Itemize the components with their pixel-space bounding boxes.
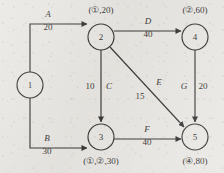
node-2-annotation: (①,20) — [88, 5, 113, 15]
node-3-number: 3 — [99, 132, 104, 142]
node-2[interactable]: 2 (①,20) — [88, 5, 114, 50]
node-3-annotation: (①,②,30) — [83, 156, 119, 166]
node-1[interactable]: 1 — [17, 72, 43, 98]
edge-A-weight: 20 — [44, 22, 54, 32]
edge-G: G 20 — [181, 50, 208, 122]
edge-B-weight: 30 — [43, 146, 53, 156]
edge-E-line — [110, 47, 184, 127]
edge-A-line — [30, 24, 87, 72]
node-4-annotation: (②,60) — [182, 5, 207, 15]
edge-A-name: A — [44, 9, 51, 19]
diagram-canvas: A 20 B 30 10 C D 40 E 15 — [0, 0, 224, 173]
node-4-number: 4 — [193, 32, 198, 42]
edge-C: 10 C — [86, 50, 113, 122]
node-2-number: 2 — [99, 32, 104, 42]
node-3[interactable]: 3 (①,②,30) — [83, 124, 119, 166]
edge-B-name: B — [44, 133, 50, 143]
edge-B: B 30 — [30, 98, 87, 156]
edge-C-name: C — [106, 81, 113, 91]
edge-D: D 40 — [114, 16, 181, 39]
edge-D-name: D — [144, 16, 152, 26]
edge-D-weight: 40 — [144, 29, 154, 39]
edge-B-line — [30, 98, 87, 148]
edge-F: F 40 — [114, 124, 181, 147]
node-5-number: 5 — [193, 132, 198, 142]
edge-C-weight: 10 — [86, 81, 96, 91]
node-4[interactable]: 4 (②,60) — [182, 5, 208, 50]
network-graph: A 20 B 30 10 C D 40 E 15 — [0, 0, 224, 173]
edge-G-name: G — [181, 81, 188, 91]
edge-E-weight: 15 — [136, 91, 146, 101]
node-5-annotation: (④,80) — [182, 156, 207, 166]
edge-G-weight: 20 — [199, 81, 209, 91]
edge-A: A 20 — [30, 9, 87, 72]
edge-F-weight: 40 — [143, 137, 153, 147]
edge-F-name: F — [143, 124, 150, 134]
node-1-number: 1 — [28, 80, 33, 90]
node-5[interactable]: 5 (④,80) — [182, 124, 208, 166]
edge-E: E 15 — [110, 47, 184, 127]
edge-E-name: E — [155, 77, 162, 87]
